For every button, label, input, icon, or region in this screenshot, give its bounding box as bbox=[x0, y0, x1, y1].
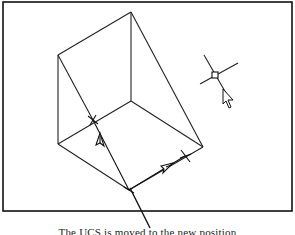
drawing bbox=[0, 0, 295, 235]
figure-canvas: The UCS is moved to the new position bbox=[0, 0, 295, 235]
pickbox-icon bbox=[212, 72, 218, 78]
figure-caption: The UCS is moved to the new position bbox=[0, 226, 295, 235]
